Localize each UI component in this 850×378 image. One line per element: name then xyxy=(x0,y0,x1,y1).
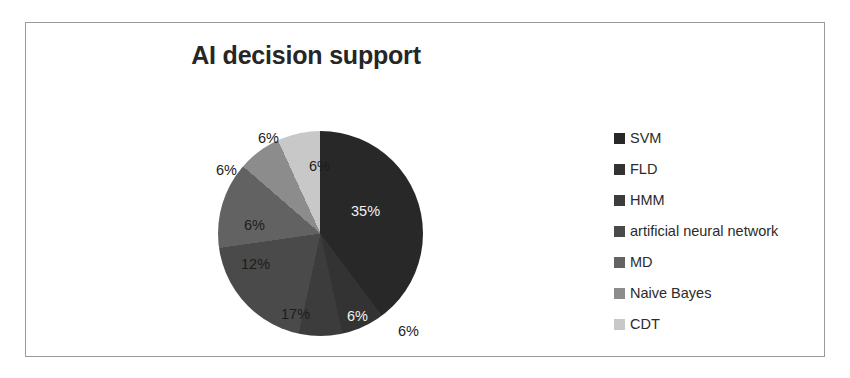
legend-label: MD xyxy=(630,255,653,270)
legend-swatch-icon xyxy=(614,133,625,144)
slice-label-fld: 6% xyxy=(398,324,419,339)
slice-label-svm: 35% xyxy=(351,204,380,219)
legend-item-md[interactable]: MD xyxy=(614,247,839,278)
legend-swatch-icon xyxy=(614,226,625,237)
chart-title: AI decision support xyxy=(26,41,586,70)
slice-label-md: 12% xyxy=(241,257,270,272)
legend-item-naive-bayes[interactable]: Naive Bayes xyxy=(614,278,839,309)
legend-item-svm[interactable]: SVM xyxy=(614,123,839,154)
slice-label-outer-top: 6% xyxy=(258,131,279,146)
slice-label-naive-bayes: 6% xyxy=(244,218,265,233)
chart-frame: AI decision support 35% 6% 6% 17% 12% 6%… xyxy=(25,22,825,357)
legend-label: CDT xyxy=(630,317,660,332)
legend-item-cdt[interactable]: CDT xyxy=(614,309,839,340)
legend-swatch-icon xyxy=(614,257,625,268)
slice-label-outer-left: 6% xyxy=(216,163,237,178)
legend-label: SVM xyxy=(630,131,661,146)
slice-label-ann: 17% xyxy=(281,307,310,322)
legend-swatch-icon xyxy=(614,288,625,299)
legend-item-artificial-neural-network[interactable]: artificial neural network xyxy=(614,216,839,247)
slice-label-cdt: 6% xyxy=(309,159,330,174)
legend-swatch-icon xyxy=(614,164,625,175)
pie-chart-plot-area: 35% 6% 6% 17% 12% 6% 6% 6% 6% xyxy=(196,111,446,361)
legend-label: FLD xyxy=(630,162,657,177)
legend-swatch-icon xyxy=(614,195,625,206)
legend-item-hmm[interactable]: HMM xyxy=(614,185,839,216)
chart-legend: SVM FLD HMM artificial neural network MD… xyxy=(614,123,839,340)
legend-label: HMM xyxy=(630,193,665,208)
legend-label: artificial neural network xyxy=(630,224,778,239)
legend-label: Naive Bayes xyxy=(630,286,711,301)
slice-label-hmm: 6% xyxy=(347,309,368,324)
legend-item-fld[interactable]: FLD xyxy=(614,154,839,185)
legend-swatch-icon xyxy=(614,319,625,330)
